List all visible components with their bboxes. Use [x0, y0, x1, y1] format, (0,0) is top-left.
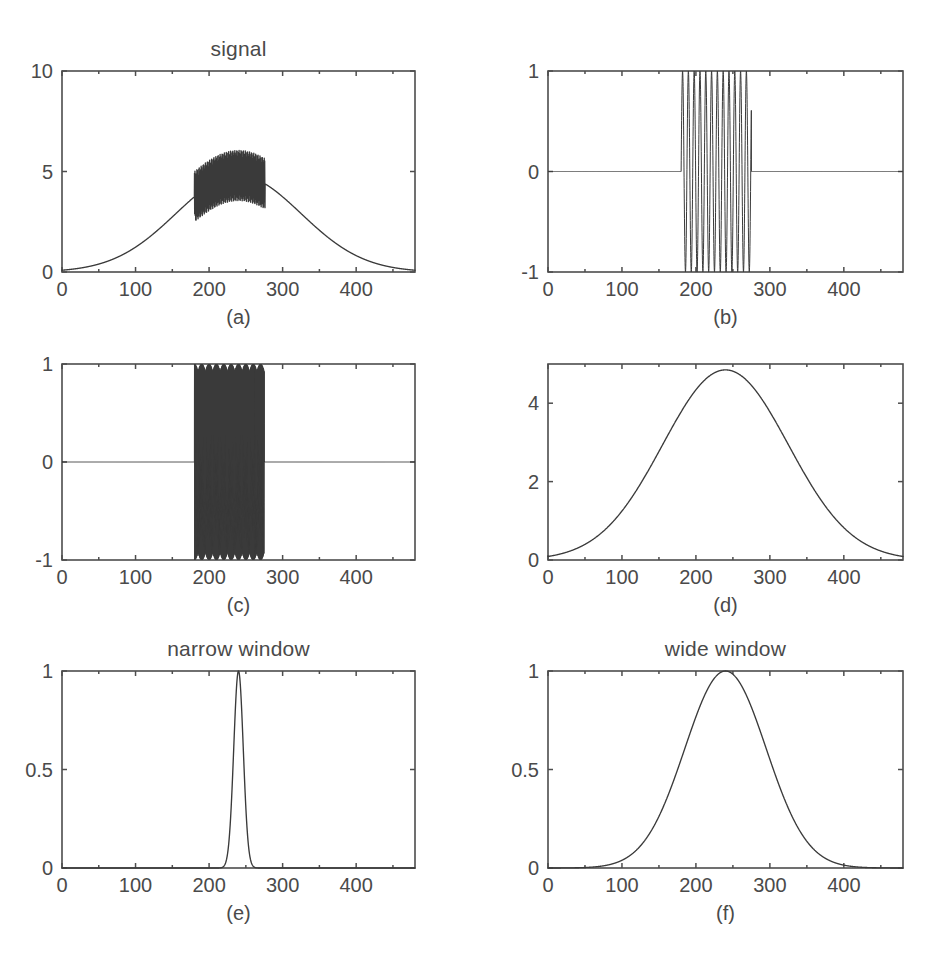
y-tick-label: 4: [528, 392, 539, 414]
panel-b: 0100200300400-101(b): [486, 37, 929, 338]
panel-a: signal01002003004000510(a): [0, 37, 441, 338]
y-tick-label: 1: [528, 660, 539, 682]
x-tick-label: 400: [339, 874, 372, 896]
y-tick-label: 1: [42, 353, 53, 375]
panel-e-title: narrow window: [18, 637, 459, 661]
x-tick-label: 400: [339, 278, 372, 300]
y-tick-label: 0: [528, 549, 539, 571]
y-tick-label: 0: [42, 857, 53, 879]
x-tick-label: 200: [192, 278, 225, 300]
panel-b-series-0: [548, 71, 903, 272]
figure-root: signal01002003004000510(a) 0100200300400…: [0, 0, 945, 970]
panel-e-plot: 010020030040000.51: [0, 637, 441, 934]
x-tick-label: 100: [119, 278, 152, 300]
y-tick-label: 0.5: [25, 759, 53, 781]
panel-f-axis-box: [548, 671, 903, 868]
panel-d: 0100200300400024(d): [486, 330, 929, 626]
y-tick-label: 0: [42, 261, 53, 283]
panel-c-plot: 0100200300400-101: [0, 330, 441, 626]
x-tick-label: 300: [753, 874, 786, 896]
x-tick-label: 100: [605, 566, 638, 588]
x-tick-label: 0: [542, 278, 553, 300]
x-tick-label: 0: [56, 874, 67, 896]
panel-c-series-0: [62, 364, 415, 560]
panel-f-plot: 010020030040000.51: [486, 637, 929, 934]
panel-d-axis-box: [548, 364, 903, 560]
panel-b-plot: 0100200300400-101: [486, 37, 929, 338]
x-tick-label: 400: [827, 874, 860, 896]
x-tick-label: 400: [827, 566, 860, 588]
x-tick-label: 200: [192, 874, 225, 896]
panel-c-caption: (c): [18, 594, 459, 617]
x-tick-label: 100: [605, 874, 638, 896]
panel-a-title: signal: [18, 37, 459, 61]
panel-f-series-0: [548, 671, 903, 868]
y-tick-label: 1: [528, 60, 539, 82]
x-tick-label: 0: [542, 874, 553, 896]
x-tick-label: 400: [827, 278, 860, 300]
y-tick-label: 0: [42, 451, 53, 473]
panel-e-axis-box: [62, 671, 415, 868]
panel-e-series-0: [62, 671, 415, 868]
x-tick-label: 300: [266, 566, 299, 588]
y-tick-label: 0: [528, 857, 539, 879]
panel-c: 0100200300400-101(c): [0, 330, 441, 626]
x-tick-label: 200: [192, 566, 225, 588]
panel-f-title: wide window: [504, 637, 945, 661]
x-tick-label: 200: [679, 278, 712, 300]
y-tick-label: 5: [42, 161, 53, 183]
x-tick-label: 0: [542, 566, 553, 588]
y-tick-label: 10: [31, 60, 53, 82]
x-tick-label: 100: [119, 874, 152, 896]
y-tick-label: 0: [528, 161, 539, 183]
y-tick-label: -1: [35, 549, 53, 571]
panel-a-caption: (a): [18, 306, 459, 329]
panel-a-plot: 01002003004000510: [0, 37, 441, 338]
y-tick-label: 1: [42, 660, 53, 682]
x-tick-label: 0: [56, 566, 67, 588]
x-tick-label: 400: [339, 566, 372, 588]
panel-d-caption: (d): [504, 594, 945, 617]
x-tick-label: 200: [679, 874, 712, 896]
panel-d-plot: 0100200300400024: [486, 330, 929, 626]
x-tick-label: 300: [753, 278, 786, 300]
panel-d-series-0: [548, 370, 903, 557]
panel-f-caption: (f): [504, 902, 945, 925]
x-tick-label: 200: [679, 566, 712, 588]
panel-e-caption: (e): [18, 902, 459, 925]
x-tick-label: 300: [753, 566, 786, 588]
panel-a-series-0: [62, 150, 415, 270]
x-tick-label: 100: [119, 566, 152, 588]
x-tick-label: 0: [56, 278, 67, 300]
panel-f: wide window010020030040000.51(f): [486, 637, 929, 934]
y-tick-label: 2: [528, 471, 539, 493]
panel-b-caption: (b): [504, 306, 945, 329]
y-tick-label: 0.5: [511, 759, 539, 781]
y-tick-label: -1: [521, 261, 539, 283]
panel-e: narrow window010020030040000.51(e): [0, 637, 441, 934]
x-tick-label: 300: [266, 874, 299, 896]
x-tick-label: 300: [266, 278, 299, 300]
x-tick-label: 100: [605, 278, 638, 300]
